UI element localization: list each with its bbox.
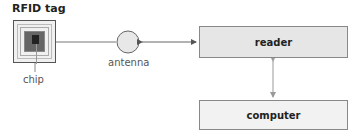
reader-label: reader <box>255 37 292 48</box>
reader-box: reader <box>199 26 348 58</box>
computer-label: computer <box>247 110 301 121</box>
antenna-label: antenna <box>108 57 149 68</box>
computer-box: computer <box>199 100 348 130</box>
chip-label: chip <box>23 74 44 85</box>
